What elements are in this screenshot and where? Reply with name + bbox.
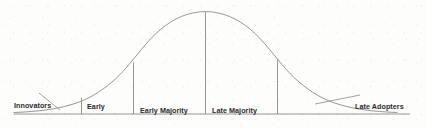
segment-label-innovators: Innovators 2.5% (14, 83, 51, 128)
segment-label-early-adopters: Early Adopters 13.5% (87, 84, 119, 128)
segment-name-late-majority: Late Majority (212, 106, 257, 115)
segment-label-late-adopters: Late Adopters 16% (355, 84, 404, 128)
segment-name-late-adopters: Late Adopters (355, 102, 404, 111)
adoption-curve-figure: Innovators 2.5% Early Adopters 13.5% Ear… (0, 0, 427, 128)
segment-name-early-majority: Early Majority (140, 106, 188, 115)
segment-label-early-majority: Early Majority 34% (140, 88, 188, 128)
segment-name-early-adopters-line1: Early (87, 102, 119, 111)
leader-line-late-adopters (315, 95, 360, 104)
segment-name-innovators: Innovators (14, 101, 51, 110)
segment-label-late-majority: Late Majority 34% (212, 88, 257, 128)
